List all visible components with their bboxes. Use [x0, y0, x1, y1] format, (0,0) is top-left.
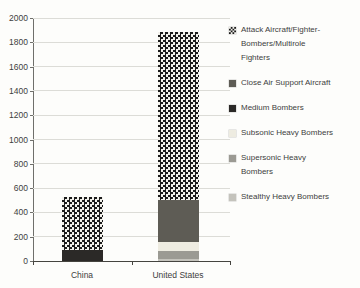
bar-segment-subsonic-heavy-bombers — [158, 242, 199, 251]
bar-china — [62, 197, 103, 261]
bar-united-states — [158, 32, 199, 261]
y-axis-tick — [30, 212, 33, 213]
bar-segment-close-air-support-aircraft — [158, 200, 199, 242]
gridline-1600 — [33, 66, 230, 67]
y-axis-tick-label: 1200 — [0, 110, 28, 120]
legend-item-attack-aircraft-fighter-bombers-multirole-fighters: Attack Aircraft/Fighter-Bombers/Multirol… — [229, 25, 357, 65]
legend-swatch-supersonic-heavy-bombers-icon — [229, 155, 236, 162]
legend-label: Attack Aircraft/Fighter-Bombers/Multirol… — [241, 23, 320, 65]
y-axis-tick — [30, 67, 33, 68]
y-axis-tick — [30, 164, 33, 165]
bar-segment-stealthy-heavy-bombers — [158, 259, 199, 261]
bar-segment-medium-bombers — [62, 250, 103, 261]
gridline-1400 — [33, 90, 230, 91]
bar-segment-supersonic-heavy-bombers — [158, 251, 199, 259]
y-axis-tick-label: 400 — [0, 207, 28, 217]
legend-label: Medium Bombers — [241, 101, 304, 115]
legend-item-close-air-support-aircraft: Close Air Support Aircraft — [229, 78, 357, 90]
gridline-600 — [33, 188, 230, 189]
legend-item-stealthy-heavy-bombers: Stealthy Heavy Bombers — [229, 192, 357, 204]
y-axis-tick-label: 2000 — [0, 13, 28, 23]
stacked-bar-chart: Attack Aircraft/Fighter-Bombers/Multirol… — [0, 0, 360, 288]
x-axis-category-label: United States — [128, 270, 228, 280]
legend-label: Subsonic Heavy Bombers — [241, 126, 333, 140]
y-axis-tick-label: 1800 — [0, 37, 28, 47]
legend-label: Supersonic HeavyBombers — [241, 151, 306, 179]
bar-segment-attack-aircraft-fighter-bombers-multirole-fighters — [158, 32, 199, 200]
legend-swatch-medium-bombers-icon — [229, 105, 236, 112]
y-axis-tick-label: 1400 — [0, 86, 28, 96]
legend-swatch-attack-aircraft-fighter-bombers-multirole-fighters-icon — [229, 27, 236, 34]
gridline-1200 — [33, 115, 230, 116]
bar-segment-attack-aircraft-fighter-bombers-multirole-fighters — [62, 197, 103, 250]
y-axis-tick — [30, 42, 33, 43]
y-axis-tick — [30, 91, 33, 92]
y-axis-tick — [30, 140, 33, 141]
y-axis-tick — [30, 18, 33, 19]
legend-swatch-subsonic-heavy-bombers-icon — [229, 130, 236, 137]
y-axis-tick — [30, 237, 33, 238]
x-axis-tick — [230, 262, 231, 265]
legend-item-medium-bombers: Medium Bombers — [229, 103, 357, 115]
chart-legend: Attack Aircraft/Fighter-Bombers/Multirol… — [229, 25, 357, 217]
x-axis-tick — [132, 262, 133, 265]
y-axis-tick-label: 1000 — [0, 135, 28, 145]
y-axis-tick-label: 0 — [0, 256, 28, 266]
y-axis-tick-label: 600 — [0, 183, 28, 193]
x-axis-tick — [33, 262, 34, 265]
y-axis-tick — [30, 188, 33, 189]
legend-label: Close Air Support Aircraft — [241, 76, 330, 90]
legend-label: Stealthy Heavy Bombers — [241, 190, 329, 204]
legend-swatch-stealthy-heavy-bombers-icon — [229, 194, 236, 201]
y-axis-tick — [30, 115, 33, 116]
gridline-2000 — [33, 18, 230, 19]
y-axis-tick-label: 800 — [0, 159, 28, 169]
legend-item-supersonic-heavy-bombers: Supersonic HeavyBombers — [229, 153, 357, 179]
legend-item-subsonic-heavy-bombers: Subsonic Heavy Bombers — [229, 128, 357, 140]
gridline-1000 — [33, 139, 230, 140]
gridline-800 — [33, 163, 230, 164]
y-axis-tick-label: 1600 — [0, 62, 28, 72]
gridline-1800 — [33, 42, 230, 43]
y-axis-tick-label: 200 — [0, 232, 28, 242]
x-axis-category-label: China — [32, 270, 132, 280]
legend-swatch-close-air-support-aircraft-icon — [229, 80, 236, 87]
